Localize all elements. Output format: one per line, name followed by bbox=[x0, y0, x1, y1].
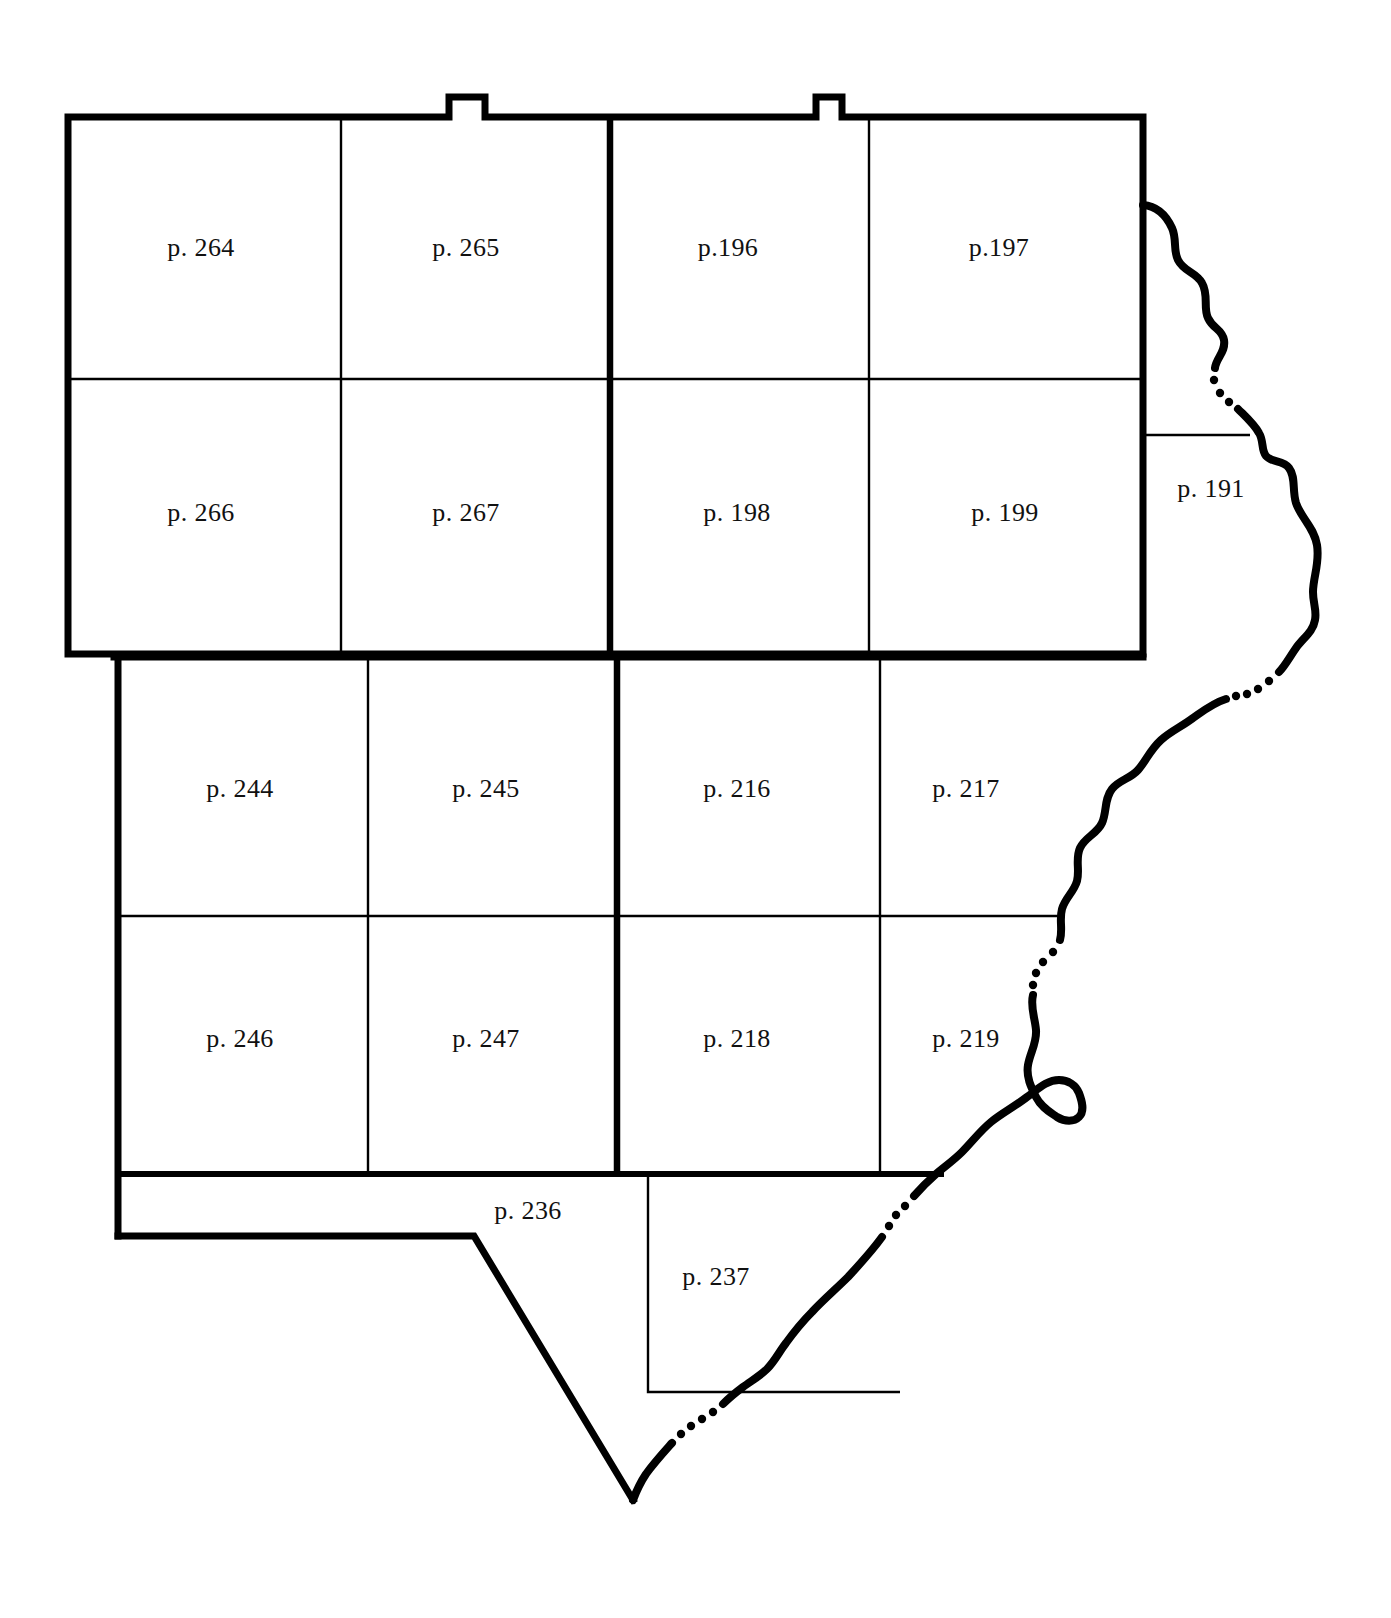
cell-label-p-199: p. 199 bbox=[971, 498, 1038, 528]
cell-label-p-246: p. 246 bbox=[206, 1024, 273, 1054]
river-segment-upper bbox=[1143, 205, 1224, 368]
upper-block-outline bbox=[68, 97, 1143, 654]
river-dot bbox=[892, 1211, 900, 1219]
river-dot bbox=[1225, 398, 1233, 406]
cell-label-p-265: p. 265 bbox=[432, 233, 499, 263]
river-dot bbox=[1049, 948, 1057, 956]
river-dot bbox=[1232, 692, 1240, 700]
river-dot bbox=[1210, 376, 1218, 384]
cell-label-p-191: p. 191 bbox=[1177, 474, 1244, 504]
river-dot bbox=[687, 1422, 695, 1430]
river-dot bbox=[1216, 389, 1224, 397]
river-dot bbox=[885, 1222, 893, 1230]
river-dot bbox=[1032, 969, 1040, 977]
p236-strip-and-wedge bbox=[118, 1236, 633, 1500]
cell-label-p-245: p. 245 bbox=[452, 774, 519, 804]
river-dot bbox=[1243, 690, 1251, 698]
river-dot bbox=[677, 1430, 685, 1438]
cell-label-p-216: p. 216 bbox=[703, 774, 770, 804]
cell-label-p-218: p. 218 bbox=[703, 1024, 770, 1054]
river-dot bbox=[1029, 981, 1037, 989]
cell-label-p-196: p.196 bbox=[698, 233, 759, 263]
cell-label-p-264: p. 264 bbox=[167, 233, 234, 263]
cell-label-p-236: p. 236 bbox=[494, 1196, 561, 1226]
cell-label-p-266: p. 266 bbox=[167, 498, 234, 528]
river-segment-mid bbox=[1060, 699, 1226, 940]
river-dot bbox=[709, 1408, 717, 1416]
map-canvas: p. 264 p. 265 p.196 p.197 p. 266 p. 267 … bbox=[0, 0, 1391, 1618]
cell-label-p-217: p. 217 bbox=[932, 774, 999, 804]
river-dot bbox=[1265, 677, 1273, 685]
river-dot bbox=[901, 1202, 909, 1210]
river-dot bbox=[1254, 685, 1262, 693]
cell-label-p-244: p. 244 bbox=[206, 774, 273, 804]
cell-label-p-219: p. 219 bbox=[932, 1024, 999, 1054]
river-dot bbox=[698, 1415, 706, 1423]
river-segment-p191 bbox=[1238, 409, 1318, 672]
cell-label-p-197: p.197 bbox=[969, 233, 1030, 263]
cell-label-p-267: p. 267 bbox=[432, 498, 499, 528]
cell-label-p-198: p. 198 bbox=[703, 498, 770, 528]
river-dot bbox=[1039, 958, 1047, 966]
river-segment-apex bbox=[633, 1443, 672, 1500]
cell-label-p-237: p. 237 bbox=[682, 1262, 749, 1292]
cell-label-p-247: p. 247 bbox=[452, 1024, 519, 1054]
